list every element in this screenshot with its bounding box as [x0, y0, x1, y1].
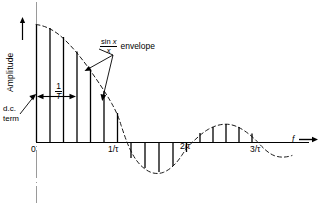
- envelope-numerator: sin x: [100, 38, 117, 46]
- envelope-sin-text: sin: [101, 37, 111, 46]
- dc-term-leader-icon: [20, 94, 36, 114]
- envelope-denominator: x: [100, 46, 117, 55]
- envelope-leader-icon: [85, 49, 114, 101]
- spacing-numerator: 1: [55, 82, 62, 91]
- envelope-fraction-glyph: sin x x: [100, 38, 117, 55]
- spectral-lines-second-lobe: [200, 124, 252, 142]
- envelope-annotation: sin x x envelope: [100, 38, 155, 55]
- y-axis-arrow-icon: [20, 17, 25, 40]
- y-axis-label: Amplitude: [6, 40, 15, 104]
- tick-label-1-over-tau: 1/τ: [108, 145, 118, 154]
- spectral-lines-negative-lobe: [131, 143, 187, 172]
- x-axis-label: f: [292, 135, 294, 144]
- spacing-denominator: T: [55, 91, 62, 101]
- dc-term-line1: d.c.: [3, 104, 19, 114]
- tick-label-2-over-tau: 2/τ: [180, 142, 190, 151]
- line-spacing-annotation: 1 T: [55, 82, 62, 101]
- tick-label-3-over-tau: 3/τ: [250, 145, 260, 154]
- tick-label-origin: 0: [31, 145, 36, 154]
- x-axis-arrow-icon: [299, 137, 318, 142]
- envelope-numerator-var: x: [113, 37, 117, 46]
- spacing-fraction-glyph: 1 T: [55, 82, 62, 101]
- figure-canvas: [0, 0, 321, 207]
- sinc-spectrum-figure: Amplitude d.c. term 1 T sin x x envelope…: [0, 0, 321, 207]
- dc-term-annotation: d.c. term: [3, 104, 19, 123]
- envelope-suffix-text: envelope: [120, 42, 155, 51]
- dc-term-line2: term: [3, 114, 19, 124]
